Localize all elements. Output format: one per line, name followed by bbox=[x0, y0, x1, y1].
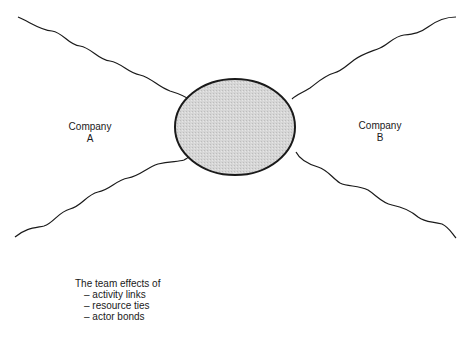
caption-item-activity-links: – activity links bbox=[75, 289, 160, 300]
company-b-line2: B bbox=[348, 132, 412, 144]
caption-item-actor-bonds: – actor bonds bbox=[75, 311, 160, 322]
caption-title: The team effects of bbox=[75, 278, 160, 289]
company-a-label: Company A bbox=[58, 121, 122, 145]
team-ellipse bbox=[175, 79, 295, 175]
connector-upper-left bbox=[18, 17, 190, 100]
company-a-line2: A bbox=[58, 133, 122, 145]
connector-lower-left bbox=[15, 157, 188, 237]
caption-item-resource-ties: – resource ties bbox=[75, 300, 160, 311]
connector-upper-right bbox=[292, 17, 456, 99]
company-b-label: Company B bbox=[348, 120, 412, 144]
diagram-canvas bbox=[0, 0, 470, 337]
connector-lower-right bbox=[296, 152, 456, 238]
caption: The team effects of – activity links – r… bbox=[75, 278, 160, 322]
company-a-line1: Company bbox=[58, 121, 122, 133]
company-b-line1: Company bbox=[348, 120, 412, 132]
